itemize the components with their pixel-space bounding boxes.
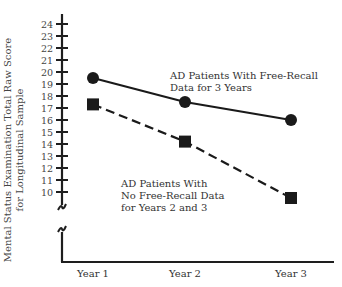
x-tick-label: Year 2 [168, 268, 201, 279]
series-label-line: AD Patients With Free-Recall [170, 70, 318, 82]
axes [58, 14, 334, 262]
y-tick-label: 15 [41, 127, 53, 138]
square-marker-icon [179, 136, 191, 148]
series-label-line: Data for 3 Years [170, 82, 318, 94]
x-tick-label: Year 1 [76, 268, 109, 279]
square-marker-icon [285, 192, 297, 204]
y-tick-label: 20 [41, 67, 53, 78]
y-tick-label: 21 [41, 55, 53, 66]
y-tick-label: 18 [41, 91, 53, 102]
y-tick-label: 23 [41, 31, 53, 42]
y-axis-label: Mental Status Examination Total Raw Scor… [2, 38, 26, 262]
y-tick-label: 19 [41, 79, 53, 90]
y-tick-label: 24 [41, 19, 53, 30]
y-axis-ticks: 101112131415161718192021222324 [41, 19, 68, 198]
y-tick-label: 11 [41, 175, 53, 186]
y-axis-label-line-1: Mental Status Examination Total Raw Scor… [2, 38, 14, 262]
y-tick-label: 13 [41, 151, 53, 162]
circle-marker-icon [179, 96, 191, 108]
x-tick-label: Year 3 [274, 268, 307, 279]
series-label-free-recall: AD Patients With Free-Recall Data for 3 … [170, 70, 318, 94]
series-label-line: No Free-Recall Data [121, 190, 224, 202]
y-tick-label: 17 [41, 103, 53, 114]
y-tick-label: 16 [41, 115, 53, 126]
y-tick-label: 14 [41, 139, 53, 150]
series-label-line: for Years 2 and 3 [121, 202, 224, 214]
series-label-no-free-recall: AD Patients With No Free-Recall Data for… [121, 178, 224, 214]
circle-marker-icon [285, 114, 297, 126]
x-axis-labels: Year 1Year 2Year 3 [76, 268, 307, 279]
y-tick-label: 12 [41, 163, 53, 174]
y-axis-label-line-2: for Longitudinal Sample [14, 38, 26, 262]
line-chart: 101112131415161718192021222324 Year 1Yea… [0, 0, 342, 287]
y-tick-label: 10 [41, 187, 53, 198]
circle-marker-icon [87, 72, 99, 84]
axis-break-icon [58, 226, 66, 232]
square-marker-icon [87, 98, 99, 110]
series-label-line: AD Patients With [121, 178, 224, 190]
y-tick-label: 22 [41, 43, 53, 54]
